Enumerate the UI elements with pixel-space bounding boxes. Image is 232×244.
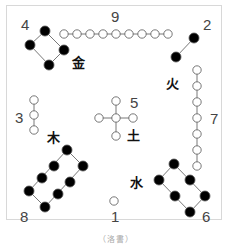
luo-shu-diagram: 4 9 2 3 5 7 8 1 6 金 火 木 土 水: [0, 0, 232, 244]
label-2: 2: [203, 16, 211, 33]
group-2-dots: [171, 33, 199, 62]
label-4: 4: [21, 16, 29, 33]
label-1: 1: [111, 208, 119, 225]
element-fire: 火: [166, 76, 180, 91]
diagram-caption: （洛書）: [0, 233, 232, 244]
label-8: 8: [20, 208, 28, 225]
label-9: 9: [111, 8, 119, 25]
label-7: 7: [210, 110, 218, 127]
element-water: 水: [130, 175, 144, 190]
label-3: 3: [15, 109, 23, 126]
element-earth: 土: [127, 128, 140, 143]
element-metal: 金: [71, 55, 86, 70]
group-9-dots: [60, 30, 172, 38]
group-8-dots: [24, 145, 88, 212]
group-1-dots: [110, 197, 118, 205]
label-6: 6: [202, 208, 210, 225]
group-3-dots: [30, 96, 38, 134]
group-7-dots: [193, 66, 201, 170]
label-5: 5: [130, 94, 138, 111]
element-wood: 木: [46, 130, 61, 145]
